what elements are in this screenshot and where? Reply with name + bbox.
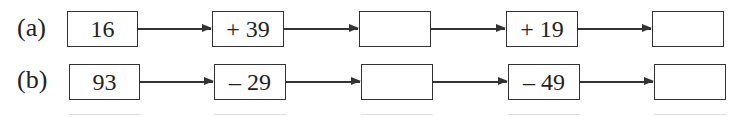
row-a-answer-box-2[interactable] [652,11,724,47]
row-a-op2-box: + 19 [506,11,578,47]
row-b-op1-box: – 29 [214,64,286,100]
row-a-arrow-1 [138,28,211,30]
cutoff-row-edge-3 [361,114,433,115]
row-a-start-box: 16 [67,11,138,47]
row-a-arrow-3 [431,28,505,30]
cutoff-row-edge-4 [508,114,580,115]
row-b-op2-box: – 49 [508,64,580,100]
row-b-start-box: 93 [69,64,140,100]
row-b-arrow-1 [140,81,213,83]
row-b-answer-box-1[interactable] [361,64,433,100]
row-a-arrow-4 [578,28,651,30]
cutoff-row-edge-5 [654,114,726,115]
row-a-op1-box: + 39 [212,11,284,47]
row-b-arrow-4 [580,81,653,83]
row-b-label: (b) [17,67,47,93]
row-a-answer-box-1[interactable] [359,11,431,47]
row-a-arrow-2 [284,28,358,30]
cutoff-row-edge-1 [69,114,141,115]
row-b-answer-box-2[interactable] [654,64,726,100]
row-b-arrow-3 [433,81,507,83]
cutoff-row-edge-2 [214,114,286,115]
row-a-label: (a) [17,15,46,41]
row-b-arrow-2 [286,81,360,83]
